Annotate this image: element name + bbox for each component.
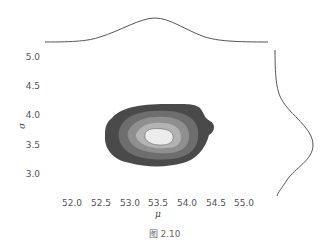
y-tick-5.0: 5.0	[26, 52, 41, 62]
contour-fills	[105, 104, 214, 166]
joint-kde-plot: 5.0 4.5 4.0 3.5 3.0 σ 52.0 52.5 53.0 53.…	[0, 0, 329, 249]
y-tick-4.5: 4.5	[26, 81, 40, 91]
marginal-sigma-curve	[275, 50, 313, 196]
x-tick-52.0: 52.0	[62, 198, 82, 208]
x-tick-53.0: 53.0	[120, 198, 140, 208]
figure-caption: 图 2.10	[0, 227, 329, 240]
x-axis-label: μ	[155, 209, 161, 219]
y-axis-label: σ	[17, 122, 27, 129]
x-tick-53.5: 53.5	[148, 198, 168, 208]
y-tick-3.0: 3.0	[26, 169, 41, 179]
y-tick-3.5: 3.5	[26, 140, 40, 150]
marginal-mu-curve	[45, 18, 268, 42]
x-tick-54.5: 54.5	[206, 198, 226, 208]
x-tick-54.0: 54.0	[177, 198, 197, 208]
y-tick-4.0: 4.0	[26, 110, 41, 120]
x-tick-52.5: 52.5	[91, 198, 111, 208]
x-tick-55.0: 55.0	[234, 198, 254, 208]
